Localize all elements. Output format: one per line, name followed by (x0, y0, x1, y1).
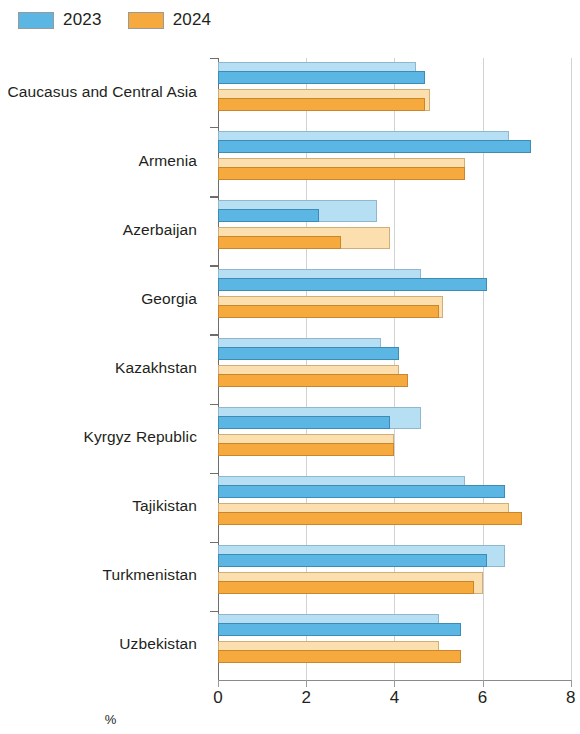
bar-2024-current (218, 512, 522, 525)
bar-2023-current (218, 554, 487, 567)
bar-2023-current (218, 278, 487, 291)
bar-2023-current (218, 140, 531, 153)
category-row: Caucasus and Central Asia (0, 58, 575, 127)
bar-2024-current (218, 236, 341, 249)
x-tick-label-2: 2 (286, 688, 326, 708)
bar-2024-current (218, 650, 461, 663)
bar-2024-current (218, 305, 439, 318)
category-label: Tajikistan (132, 497, 197, 515)
x-tick-label-4: 4 (374, 688, 414, 708)
bar-2023-current (218, 209, 319, 222)
bar-2023-current (218, 416, 390, 429)
category-row: Azerbaijan (0, 196, 575, 265)
bar-2023-current (218, 485, 505, 498)
category-row: Kazakhstan (0, 334, 575, 403)
category-label: Kazakhstan (115, 359, 197, 377)
x-tick-label-6: 6 (463, 688, 503, 708)
x-axis-title: % (0, 712, 575, 727)
category-label: Azerbaijan (123, 221, 197, 239)
bar-2024-current (218, 443, 394, 456)
bar-2024-current (218, 374, 408, 387)
x-tick-0 (218, 680, 219, 687)
x-tick-label-0: 0 (198, 688, 238, 708)
category-row: Armenia (0, 127, 575, 196)
category-row: Turkmenistan (0, 542, 575, 611)
bar-2024-current (218, 581, 474, 594)
category-row: Tajikistan (0, 473, 575, 542)
category-row: Kyrgyz Republic (0, 404, 575, 473)
category-label: Caucasus and Central Asia (8, 83, 197, 101)
x-tick-8 (571, 680, 572, 687)
category-label: Turkmenistan (102, 566, 197, 584)
bar-2023-current (218, 347, 399, 360)
x-tick-label-8: 8 (551, 688, 580, 708)
category-row: Georgia (0, 265, 575, 334)
category-label: Georgia (141, 290, 197, 308)
category-row: Uzbekistan (0, 611, 575, 680)
x-tick-4 (394, 680, 395, 687)
bar-2024-current (218, 98, 425, 111)
bar-2023-current (218, 71, 425, 84)
category-label: Kyrgyz Republic (84, 428, 198, 446)
x-axis-title-text: % (105, 712, 117, 727)
x-tick-2 (306, 680, 307, 687)
bar-2023-current (218, 623, 461, 636)
x-tick-6 (483, 680, 484, 687)
category-label: Uzbekistan (119, 635, 197, 653)
bar-2024-current (218, 167, 465, 180)
category-label: Armenia (139, 152, 197, 170)
